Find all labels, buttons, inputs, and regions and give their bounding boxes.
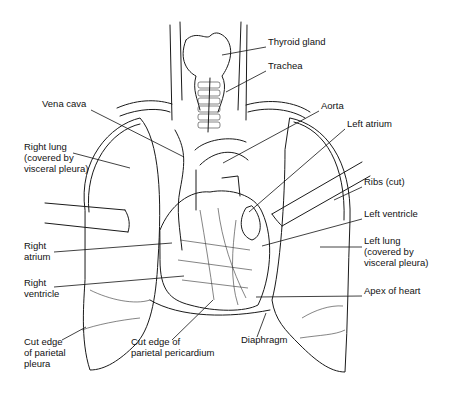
- great-vessels: [117, 101, 310, 250]
- leader-line-thyroid-gland: [222, 47, 266, 55]
- label-right-lung: Right lung (covered by visceral pleura): [24, 141, 88, 174]
- label-trachea: Trachea: [268, 60, 303, 71]
- neck-structures: [170, 22, 247, 132]
- right-lung: [82, 118, 160, 370]
- label-right-ventricle: Right ventricle: [24, 277, 59, 299]
- thorax-illustration: [0, 0, 452, 398]
- label-aorta: Aorta: [321, 100, 344, 111]
- label-left-atrium: Left atrium: [347, 118, 392, 129]
- leader-line-vena-cava: [91, 110, 184, 157]
- label-left-lung: Left lung (covered by visceral pleura): [364, 235, 428, 268]
- label-left-ventricle: Left ventricle: [364, 208, 418, 219]
- leader-line-right-atrium: [54, 243, 172, 252]
- leader-line-right-ventricle: [54, 276, 184, 287]
- label-right-atrium: Right atrium: [24, 240, 50, 262]
- cut-ribs: [45, 162, 370, 232]
- leader-lines: [54, 47, 362, 340]
- leader-line-aorta: [223, 111, 319, 163]
- label-diaphragm: Diaphragm: [241, 334, 287, 345]
- label-thyroid-gland: Thyroid gland: [268, 36, 326, 47]
- label-vena-cava: Vena cava: [42, 98, 86, 109]
- anatomy-diagram: Thyroid gland Trachea Vena cava Aorta Le…: [0, 0, 452, 398]
- leader-line-apex-of-heart: [256, 296, 362, 297]
- label-cut-edge-parietal-pleura: Cut edge of parietal pleura: [24, 336, 66, 369]
- label-apex-of-heart: Apex of heart: [364, 285, 421, 296]
- leader-line-left-ventricle: [262, 219, 362, 246]
- label-cut-edge-parietal-pericardium: Cut edge of parietal pericardium: [131, 336, 214, 358]
- label-ribs-cut: Ribs (cut): [364, 176, 405, 187]
